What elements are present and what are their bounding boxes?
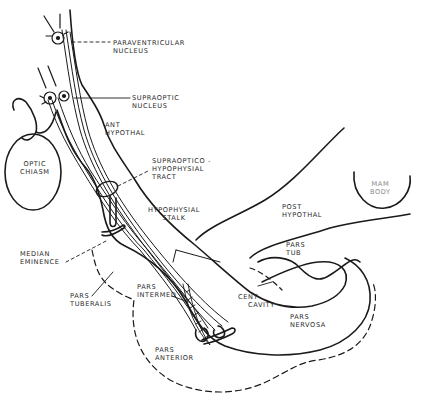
pars-anterior-dashed	[92, 250, 375, 392]
label-paraventricular-nucleus: PARAVENTRICULAR NUCLEUS	[113, 39, 185, 55]
label-pars-nervosa: PARS NERVOSA	[290, 313, 326, 329]
pars-tub-leader	[258, 282, 272, 286]
pars-tub-dashed	[250, 268, 282, 290]
paraventricular-neurons	[44, 14, 68, 44]
hypothalamus-pituitary-diagram: PARAVENTRICULAR NUCLEUS SUPRAOPTIC NUCLE…	[0, 0, 423, 407]
label-pars-tub: PARS TUB	[286, 241, 305, 257]
label-pars-tuberalis: PARS TUBERALIS	[70, 292, 112, 308]
supraoptic-neurons	[38, 66, 69, 104]
post-hypothal-bottom	[250, 214, 410, 258]
post-hypothal-top	[196, 128, 344, 240]
label-cent-cavity: CENT CAVITY	[238, 293, 275, 309]
label-hypophysial-stalk: HYPOPHYSIAL STALK	[148, 206, 200, 222]
label-ant-hypothal: ANT HYPOTHAL	[105, 121, 145, 137]
label-median-eminence: MEDIAN EMINENCE	[20, 250, 59, 266]
label-supraoptico-hypophysial-tract: SUPRAOPTICO - HYPOPHYSIAL TRACT	[152, 157, 211, 181]
median-eminence-leader	[66, 240, 108, 262]
label-optic-chiasm: OPTIC CHIASM	[20, 160, 50, 176]
label-pars-anterior: PARS ANTERIOR	[155, 346, 194, 362]
diagram-artwork	[0, 0, 423, 407]
label-mam-body: MAM BODY	[370, 180, 391, 196]
label-post-hypothal: POST HYPOTHAL	[282, 203, 322, 219]
label-supraoptic-nucleus: SUPRAOPTIC NUCLEUS	[132, 94, 179, 110]
stalk-leader	[173, 250, 220, 262]
tract-leader	[118, 170, 150, 186]
label-pars-intermed: PARS INTERMED	[137, 283, 176, 299]
